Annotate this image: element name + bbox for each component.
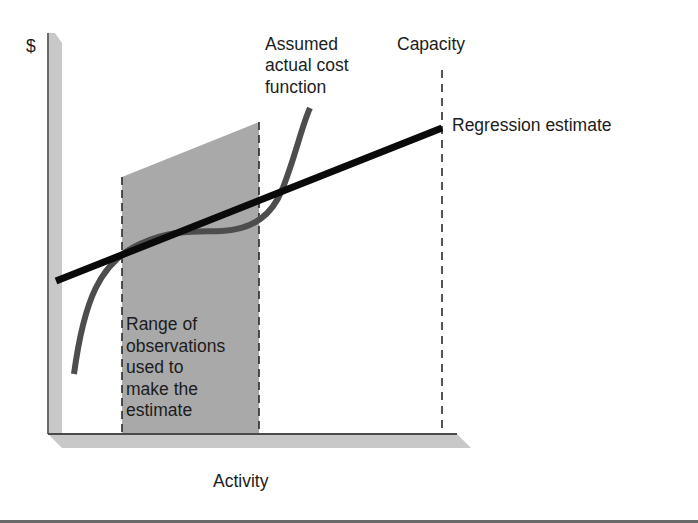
regression-estimate-label: Regression estimate	[452, 115, 612, 136]
y-axis-label: $	[26, 36, 36, 57]
range-label-line4: make the	[126, 379, 225, 401]
cost-function-label-line2: actual cost	[265, 55, 349, 76]
cost-regression-diagram	[0, 0, 698, 523]
cost-function-label-line3: function	[265, 77, 326, 98]
x-axis-shadow	[48, 434, 471, 448]
range-label-line3: used to	[126, 357, 225, 379]
range-label-line1: Range of	[126, 314, 225, 336]
range-label-line5: estimate	[126, 400, 225, 422]
y-axis-shadow	[47, 33, 62, 434]
range-of-observations-label: Range of observations used to make the e…	[126, 314, 225, 422]
cost-function-label-line1: Assumed	[265, 34, 338, 55]
capacity-label: Capacity	[397, 34, 465, 55]
range-label-line2: observations	[126, 336, 225, 358]
x-axis-label: Activity	[213, 471, 268, 492]
